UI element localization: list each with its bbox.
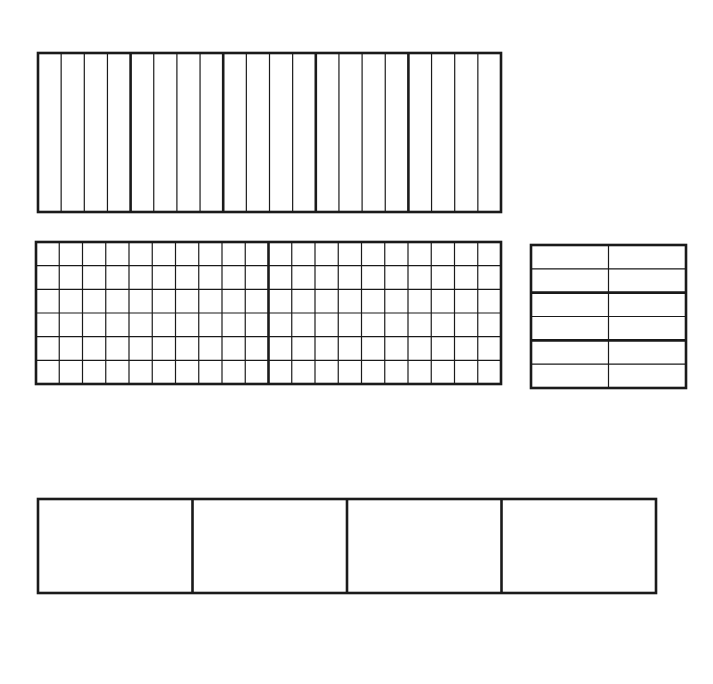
small-grid-model	[531, 245, 686, 388]
strip-model	[38, 53, 501, 212]
fourths-model	[38, 499, 656, 593]
fraction-area-models-diagram	[0, 0, 713, 684]
square-grid-model	[36, 242, 501, 384]
